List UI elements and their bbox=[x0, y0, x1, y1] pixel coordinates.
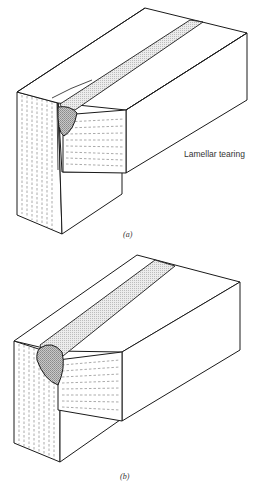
vertical-plate-front bbox=[17, 92, 62, 234]
figure-b-caption: (b) bbox=[120, 472, 129, 481]
figure-b-diagram bbox=[0, 240, 260, 490]
figure-a-caption: (a) bbox=[123, 230, 132, 239]
lamellar-tearing-label: Lamellar tearing bbox=[184, 149, 245, 159]
figure-a-diagram bbox=[0, 0, 260, 250]
